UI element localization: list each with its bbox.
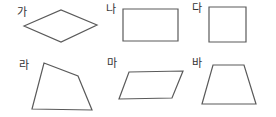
shape-label-na: 나: [106, 3, 116, 16]
shape-label-ga: 가: [17, 6, 27, 19]
rhombus-shape: [24, 10, 97, 42]
shape-label-ba: 바: [192, 57, 202, 70]
irregular-quadrilateral-shape: [32, 63, 92, 110]
rectangle-shape: [123, 9, 178, 41]
trapezoid-shape: [202, 65, 256, 104]
parallelogram-shape: [119, 71, 183, 99]
shape-ga: 가: [17, 6, 97, 42]
quadrilateral-figure: 가 나 다 라 마 바: [0, 0, 276, 117]
shape-da: 다: [192, 2, 246, 42]
square-shape: [209, 7, 246, 42]
shape-ma: 마: [107, 57, 183, 99]
shape-label-ra: 라: [19, 59, 29, 72]
shape-ba: 바: [192, 57, 256, 104]
shape-label-ma: 마: [107, 57, 117, 70]
shape-label-da: 다: [192, 2, 202, 15]
shape-ra: 라: [19, 59, 92, 110]
shape-na: 나: [106, 3, 178, 41]
